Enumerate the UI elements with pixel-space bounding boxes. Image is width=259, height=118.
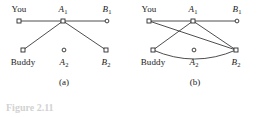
- node-label-b1: B1: [103, 4, 112, 15]
- node-b1[interactable]: [235, 19, 239, 23]
- edge-you-b2: [149, 21, 236, 50]
- node-b2[interactable]: [104, 48, 108, 52]
- edge-a1-buddy: [23, 21, 63, 50]
- node-you[interactable]: [147, 19, 151, 23]
- node-label-b1: B1: [233, 4, 242, 15]
- edge-a1-b2: [193, 21, 236, 50]
- figure-canvas: YouA1B1BuddyA2B2(a) YouA1B1BuddyA2B2(b) …: [0, 0, 259, 118]
- node-a2[interactable]: [192, 48, 196, 52]
- edge-a1-buddy: [153, 21, 193, 50]
- node-label-buddy: Buddy: [11, 57, 36, 67]
- node-label-subscript: 1: [238, 8, 241, 15]
- figure-number-caption-clipped: Figure 2.11: [6, 104, 126, 118]
- node-a2[interactable]: [62, 48, 66, 52]
- node-b2[interactable]: [234, 48, 238, 52]
- figure-number-text: Figure 2.11: [6, 104, 54, 114]
- node-a1[interactable]: [61, 19, 65, 23]
- node-label-subscript: 2: [65, 61, 68, 68]
- node-buddy[interactable]: [21, 48, 25, 52]
- panel-b: YouA1B1BuddyA2B2(b): [129, 0, 258, 94]
- node-label-b2: B2: [102, 57, 111, 68]
- node-label-subscript: 1: [194, 8, 197, 15]
- node-label-you: You: [12, 4, 27, 14]
- node-a1[interactable]: [191, 19, 195, 23]
- node-label-a2: A2: [60, 57, 69, 68]
- panel-caption-a: (a): [59, 77, 69, 87]
- node-label-b2: B2: [232, 57, 241, 68]
- node-label-you: You: [142, 4, 157, 14]
- node-label-subscript: 2: [195, 61, 198, 68]
- node-label-a2: A2: [190, 57, 199, 68]
- node-label-subscript: 1: [64, 8, 67, 15]
- node-you[interactable]: [17, 19, 21, 23]
- node-label-a1: A1: [189, 4, 198, 15]
- node-label-subscript: 2: [237, 61, 240, 68]
- node-label-subscript: 2: [107, 61, 110, 68]
- edge-a1-b2: [63, 21, 106, 50]
- node-b1[interactable]: [105, 19, 109, 23]
- panel-a: YouA1B1BuddyA2B2(a): [0, 0, 129, 94]
- node-label-a1: A1: [59, 4, 68, 15]
- node-buddy[interactable]: [151, 48, 155, 52]
- node-label-subscript: 1: [108, 8, 111, 15]
- panel-caption-b: (b): [190, 77, 201, 87]
- node-label-buddy: Buddy: [141, 57, 166, 67]
